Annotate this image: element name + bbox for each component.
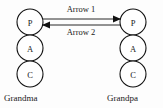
family-label-grandma: Grandma [4, 93, 38, 103]
node-label-grandma-p: P [28, 18, 33, 28]
arrow-1[interactable]: Arrow 1 [43, 4, 121, 22]
node-label-grandpa-a: A [130, 44, 137, 54]
node-label-grandma-c: C [27, 70, 33, 80]
family-diagram: P A C Grandma P A C Grandpa Arrow 1 [0, 0, 163, 108]
node-label-grandpa-p: P [131, 18, 136, 28]
arrow-2[interactable]: Arrow 2 [42, 22, 120, 37]
arrow-2-label: Arrow 2 [67, 27, 96, 37]
grandma-column: P A C Grandma [4, 9, 43, 103]
node-label-grandpa-c: C [130, 70, 136, 80]
node-label-grandma-a: A [27, 44, 34, 54]
family-label-grandpa: Grandpa [107, 93, 138, 103]
arrow-1-label: Arrow 1 [67, 4, 96, 14]
diagram-canvas: P A C Grandma P A C Grandpa Arrow 1 [0, 0, 163, 108]
grandpa-column: P A C Grandpa [107, 9, 146, 103]
